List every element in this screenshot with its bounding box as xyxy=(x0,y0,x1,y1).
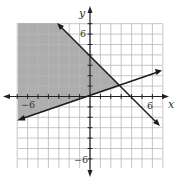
y-tick-label-pos6: 6 xyxy=(80,28,86,39)
x-tick-label-neg6: −6 xyxy=(21,99,35,110)
x-axis-label: x xyxy=(168,98,175,111)
coordinate-plane: y x −6 6 6 −6 xyxy=(0,0,181,179)
y-tick-label-neg6: −6 xyxy=(74,154,88,165)
line1-arrow-right-icon xyxy=(155,69,162,75)
y-axis-arrow-down-icon xyxy=(88,170,93,177)
x-tick-label-pos6: 6 xyxy=(147,100,153,111)
x-axis-arrow-left-icon xyxy=(3,94,10,99)
y-axis-label: y xyxy=(78,7,86,20)
y-axis-arrow-up-icon xyxy=(88,6,93,13)
